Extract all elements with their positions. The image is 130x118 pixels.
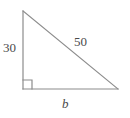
vertical-leg-label: 30 — [3, 41, 16, 54]
hypotenuse-label: 50 — [74, 35, 87, 48]
base-leg-label: b — [62, 97, 69, 110]
hypotenuse-line — [23, 11, 118, 89]
right-angle-marker-icon — [23, 80, 32, 89]
right-triangle-figure: 30 50 b — [0, 0, 130, 118]
